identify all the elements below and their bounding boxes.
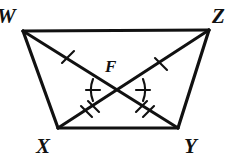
vertex-label-W: W	[0, 6, 16, 27]
side-ZY	[178, 30, 209, 128]
diagonal-WY	[23, 31, 178, 128]
side-WX	[23, 31, 58, 128]
vertex-label-X: X	[36, 136, 50, 157]
side-WZ	[23, 30, 209, 31]
vertex-label-Z: Z	[212, 6, 225, 27]
angle-ZFY	[136, 79, 150, 101]
geometry-diagram-canvas: W Z X Y F	[0, 0, 236, 162]
angle-WFX	[86, 79, 100, 101]
quadrilateral-sides	[23, 30, 209, 128]
point-label-F: F	[105, 58, 116, 75]
diagonal-ZX	[58, 30, 209, 128]
vertex-label-Y: Y	[184, 136, 197, 157]
